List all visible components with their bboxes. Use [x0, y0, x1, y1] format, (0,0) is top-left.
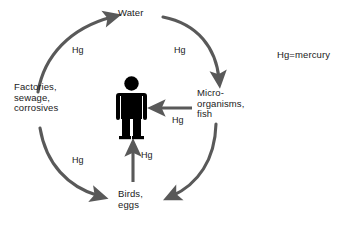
human-leg-left [122, 117, 130, 139]
flow-label-factories-to-water: Hg [72, 45, 84, 55]
node-label-water: Water [118, 8, 143, 19]
node-label-factories: Factories, sewage, corrosives [14, 82, 58, 114]
flow-label-water-to-micro: Hg [174, 45, 186, 55]
node-label-birds-eggs: Birds, eggs [118, 189, 143, 210]
flow-label-birds-to-human: Hg [141, 150, 153, 160]
human-torso [121, 93, 142, 119]
human-head [124, 76, 138, 90]
node-label-micro-organisms: Micro- organisms, fish [197, 88, 244, 120]
arrow-factories-to-birds [40, 128, 99, 196]
flow-label-factories-to-birds: Hg [72, 155, 84, 165]
legend-mercury-abbreviation: Hg=mercury [277, 49, 330, 60]
human-figure-icon [116, 76, 147, 139]
human-foot-right [132, 136, 144, 139]
arrow-micro-to-birds [172, 124, 216, 196]
mercury-cycle-diagram: Water Micro- organisms, fish Birds, eggs… [0, 0, 354, 227]
diagram-canvas [0, 0, 354, 227]
human-foot-left [119, 136, 131, 139]
human-leg-right [133, 117, 141, 139]
flow-label-micro-to-human: Hg [172, 115, 184, 125]
arrow-water-to-micro [163, 17, 219, 79]
